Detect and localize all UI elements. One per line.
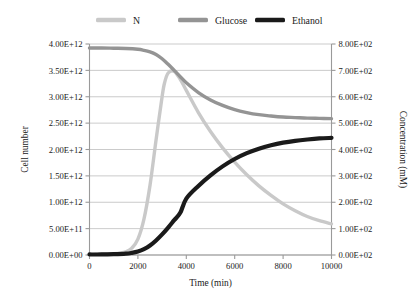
y-tick-label-left-2: 1.00E+12 bbox=[49, 197, 83, 207]
chart-canvas: 0200040006000800010000 0.00E+005.00E+111… bbox=[0, 0, 420, 301]
y-tick-label-right-5: 5.00E+02 bbox=[339, 118, 373, 128]
x-tick-label-1: 2000 bbox=[129, 261, 146, 271]
legend-item-ethanol[interactable]: Ethanol bbox=[255, 15, 323, 26]
y-axis-title-left: Cell number bbox=[20, 125, 30, 172]
x-tick-label-3: 6000 bbox=[226, 261, 243, 271]
y-tick-label-right-7: 7.00E+02 bbox=[339, 66, 373, 76]
y-tick-label-left-8: 4.00E+12 bbox=[49, 39, 83, 49]
series-line-glucose bbox=[90, 48, 332, 119]
x-tick-labels: 0200040006000800010000 bbox=[87, 261, 342, 271]
y-tick-label-left-6: 3.00E+12 bbox=[49, 92, 83, 102]
y-tick-label-left-4: 2.00E+12 bbox=[49, 145, 83, 155]
y-tick-label-left-3: 1.50E+12 bbox=[49, 171, 83, 181]
legend-item-n[interactable]: N bbox=[96, 15, 140, 26]
legend-swatch-ethanol bbox=[255, 18, 285, 23]
legend-swatch-glucose bbox=[178, 18, 208, 23]
y-tick-label-left-7: 3.50E+12 bbox=[49, 66, 83, 76]
x-axis-title: Time (min) bbox=[189, 278, 232, 289]
x-tick-label-2: 4000 bbox=[178, 261, 195, 271]
data-series bbox=[90, 48, 332, 255]
x-tick-label-0: 0 bbox=[87, 261, 91, 271]
axis-ticks bbox=[86, 44, 336, 259]
series-line-ethanol bbox=[90, 138, 332, 255]
y-tick-label-right-6: 6.00E+02 bbox=[339, 92, 373, 102]
legend-label-n: N bbox=[133, 15, 140, 26]
y-tick-label-left-1: 5.00E+11 bbox=[49, 224, 82, 234]
chart-figure: 0200040006000800010000 0.00E+005.00E+111… bbox=[0, 0, 420, 301]
y-tick-label-right-0: 0.00E+02 bbox=[339, 250, 373, 260]
y-tick-label-right-2: 2.00E+02 bbox=[339, 197, 373, 207]
y-tick-label-left-0: 0.00E+00 bbox=[49, 250, 83, 260]
legend-swatch-n bbox=[96, 18, 126, 23]
y-right-tick-labels: 0.00E+021.00E+022.00E+023.00E+024.00E+02… bbox=[339, 39, 373, 260]
x-tick-label-5: 10000 bbox=[321, 261, 342, 271]
plot-gridlines bbox=[90, 44, 332, 255]
y-axis-title-right: Concentration (mM) bbox=[397, 111, 408, 188]
x-tick-label-4: 8000 bbox=[275, 261, 292, 271]
legend-label-ethanol: Ethanol bbox=[292, 15, 323, 26]
y-tick-label-right-3: 3.00E+02 bbox=[339, 171, 373, 181]
y-tick-label-right-8: 8.00E+02 bbox=[339, 39, 373, 49]
legend-label-glucose: Glucose bbox=[215, 15, 248, 26]
y-tick-label-right-1: 1.00E+02 bbox=[339, 224, 373, 234]
y-left-tick-labels: 0.00E+005.00E+111.00E+121.50E+122.00E+12… bbox=[49, 39, 83, 260]
y-tick-label-right-4: 4.00E+02 bbox=[339, 145, 373, 155]
chart-legend: NGlucoseEthanol bbox=[96, 15, 323, 26]
legend-item-glucose[interactable]: Glucose bbox=[178, 15, 248, 26]
y-tick-label-left-5: 2.50E+12 bbox=[49, 118, 83, 128]
